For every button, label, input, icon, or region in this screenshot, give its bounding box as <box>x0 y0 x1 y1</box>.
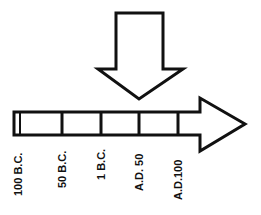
timeline-diagram: 100 B.C. 50 B.C. 1 B.C. A.D. 50 A.D.100 <box>0 0 261 215</box>
down-arrow-icon <box>98 13 183 99</box>
timeline-label-ad100: A.D.100 <box>172 160 184 200</box>
timeline-arrow-icon <box>14 98 245 151</box>
timeline-label-ad50: A.D. 50 <box>133 154 145 191</box>
timeline-label-100bc: 100 B.C. <box>12 153 24 196</box>
timeline-label-50bc: 50 B.C. <box>56 151 68 188</box>
timeline-label-1bc: 1 B.C. <box>95 149 107 180</box>
